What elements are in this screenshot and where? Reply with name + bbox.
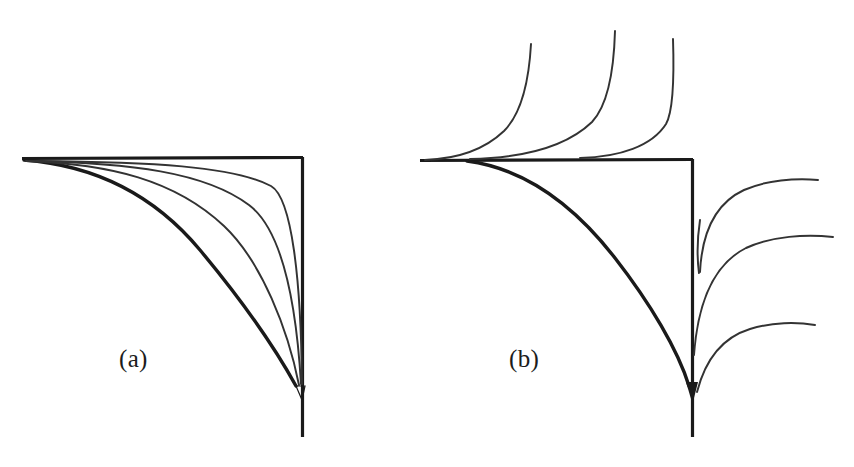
panel-b-horizontal-axis [420,160,693,161]
panel-a-curve-4 [36,161,302,384]
panel-label-b: (b) [509,346,539,371]
figure-drawing [0,0,854,467]
panel-b-right-curve-1 [700,179,818,272]
panel-b-upper-curve-1 [425,44,531,160]
panel-b-upper-curve-3 [580,39,673,158]
panel-a-horizontal-axis [22,158,303,159]
panel-b-group [420,31,833,437]
panel-a-curve-3 [30,161,301,384]
panel-a-curve-1 [24,160,296,386]
panel-b-convergence-cusp [686,382,698,404]
panel-a-group [22,157,305,437]
panel-label-a: (a) [119,346,148,371]
panel-b-separatrix [467,161,689,386]
panel-a-curve-2 [26,161,299,385]
panel-b-right-curve-3 [697,323,815,392]
panel-b-right-curve-2 [694,236,833,355]
figure-canvas: (a) (b) [0,0,854,467]
